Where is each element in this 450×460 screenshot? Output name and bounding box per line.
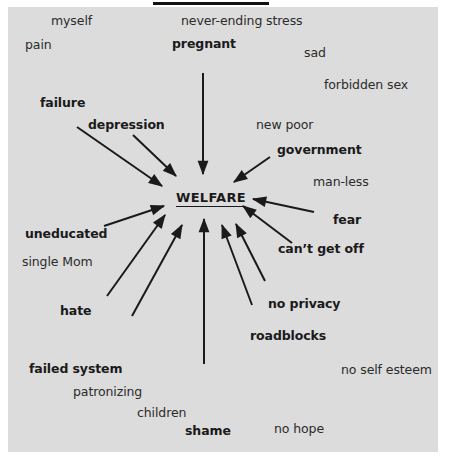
word-node-pain: pain bbox=[25, 37, 52, 52]
arrow-hate-lower bbox=[132, 225, 182, 316]
word-node-failed-system: failed system bbox=[29, 361, 122, 376]
arrow-fear bbox=[253, 199, 314, 212]
word-node-failure: failure bbox=[40, 95, 85, 110]
word-node-forbidden-sex: forbidden sex bbox=[324, 77, 408, 92]
word-node-no-self-esteem: no self esteem bbox=[341, 362, 432, 377]
word-node-single-mom: single Mom bbox=[22, 254, 93, 269]
word-node-fear: fear bbox=[333, 212, 361, 227]
word-node-hate: hate bbox=[60, 303, 91, 318]
word-node-man-less: man-less bbox=[313, 174, 369, 189]
arrow-no-privacy bbox=[222, 225, 252, 305]
word-node-never-ending-stress: never-ending stress bbox=[181, 13, 303, 28]
arrow-cant-get-off bbox=[243, 206, 292, 243]
arrow-government bbox=[234, 157, 270, 182]
word-node-cant-get-off: can’t get off bbox=[278, 241, 364, 256]
word-node-depression: depression bbox=[88, 117, 165, 132]
word-node-no-privacy: no privacy bbox=[268, 296, 340, 311]
word-node-sad: sad bbox=[304, 45, 326, 60]
word-node-uneducated: uneducated bbox=[25, 226, 107, 241]
word-node-pregnant: pregnant bbox=[172, 36, 236, 51]
word-node-patronizing: patronizing bbox=[73, 384, 142, 399]
arrow-failure bbox=[77, 127, 162, 186]
word-node-myself: myself bbox=[51, 13, 92, 28]
word-node-no-hope: no hope bbox=[274, 421, 324, 436]
word-node-government: government bbox=[277, 142, 362, 157]
word-node-roadblocks: roadblocks bbox=[250, 328, 326, 343]
center-node-welfare: WELFARE bbox=[176, 190, 246, 207]
word-node-new-poor: new poor bbox=[256, 117, 313, 132]
arrow-uneducated bbox=[104, 206, 164, 226]
word-node-shame: shame bbox=[185, 423, 231, 438]
arrow-hate-upper bbox=[107, 215, 165, 296]
word-node-children: children bbox=[137, 405, 186, 420]
